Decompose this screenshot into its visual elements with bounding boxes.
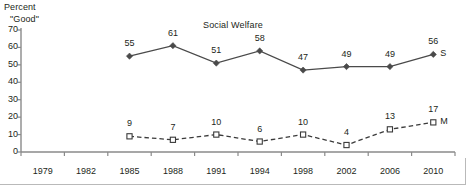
marker-square [387,127,392,132]
x-tick-label: 1991 [193,166,239,176]
marker-square [344,142,349,147]
point-value-label: 51 [203,45,229,55]
marker-diamond [170,43,176,49]
x-tick-label: 1982 [63,166,109,176]
point-value-label: 10 [290,117,316,127]
x-tick-label: 1998 [280,166,326,176]
x-tick-label: 2006 [367,166,413,176]
point-value-label: 10 [203,117,229,127]
point-value-label: 47 [290,52,316,62]
marker-square [214,132,219,137]
y-tick-label: 40 [2,76,18,86]
plot-area [0,0,466,185]
point-value-label: 6 [247,124,273,134]
series-endcap-S: S [440,48,446,58]
x-tick-label: 1994 [237,166,283,176]
marker-diamond [343,64,349,70]
point-value-label: 13 [377,111,403,121]
y-tick-label: 70 [2,24,18,34]
point-value-label: 49 [334,49,360,59]
point-value-label: 58 [247,33,273,43]
y-tick-label: 30 [2,94,18,104]
x-tick-label: 1988 [150,166,196,176]
x-tick-label: 2002 [324,166,370,176]
point-value-label: 56 [420,36,446,46]
marker-diamond [213,60,219,66]
y-tick-label: 0 [2,146,18,156]
marker-diamond [257,48,263,54]
point-value-label: 55 [117,38,143,48]
marker-square [257,139,262,144]
y-tick-label: 20 [2,111,18,121]
y-tick-label: 50 [2,59,18,69]
point-value-label: 17 [420,104,446,114]
marker-square [431,120,436,125]
y-tick-label: 60 [2,41,18,51]
marker-square [301,132,306,137]
x-tick-label: 1985 [107,166,153,176]
point-value-label: 4 [334,127,360,137]
x-tick-label: 2010 [410,166,456,176]
point-value-label: 7 [160,122,186,132]
chart-container: Percent "Good" Social Welfare 0102030405… [0,0,466,185]
series-endcap-M: M [440,116,448,126]
y-tick-label: 10 [2,129,18,139]
point-value-label: 9 [117,118,143,128]
marker-diamond [387,64,393,70]
marker-square [170,137,175,142]
marker-diamond [126,53,132,59]
point-value-label: 49 [377,49,403,59]
x-tick-label: 1979 [20,166,66,176]
marker-square [127,134,132,139]
marker-diamond [300,67,306,73]
marker-diamond [430,51,436,57]
point-value-label: 61 [160,28,186,38]
